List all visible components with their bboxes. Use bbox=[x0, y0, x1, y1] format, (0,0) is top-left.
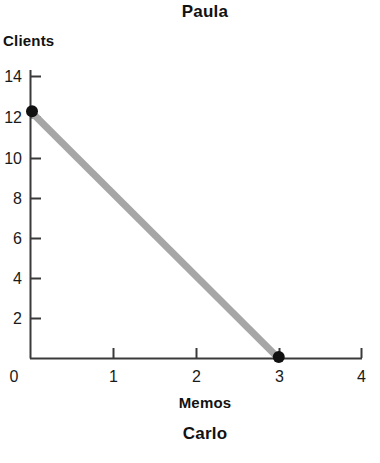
y-axis-tick-labels: 14 12 10 8 6 4 2 bbox=[4, 68, 22, 327]
y-tick-label-4: 4 bbox=[13, 270, 22, 287]
chart-subtitle: Carlo bbox=[0, 424, 380, 444]
x-axis-title-text: Memos bbox=[179, 394, 232, 411]
y-tick-label-14: 14 bbox=[4, 68, 22, 85]
y-tick-label-8: 8 bbox=[13, 190, 22, 207]
y-tick-label-12: 12 bbox=[4, 109, 22, 126]
x-tick-label-3: 3 bbox=[275, 368, 284, 385]
x-tick-label-1: 1 bbox=[109, 368, 118, 385]
x-tick-label-2: 2 bbox=[192, 368, 201, 385]
chart-subtitle-text: Carlo bbox=[183, 424, 227, 443]
y-tick-label-6: 6 bbox=[13, 230, 22, 247]
data-line-ppf bbox=[31, 111, 279, 358]
data-point-marker-3-0[interactable] bbox=[273, 351, 285, 363]
axis-origin-label: 0 bbox=[10, 368, 19, 385]
x-axis-ticks bbox=[114, 348, 362, 358]
x-tick-label-4: 4 bbox=[357, 368, 366, 385]
y-tick-label-10: 10 bbox=[4, 150, 22, 167]
data-point-marker-0-12[interactable] bbox=[26, 105, 38, 117]
y-tick-label-2: 2 bbox=[13, 310, 22, 327]
x-axis-title: Memos bbox=[0, 394, 380, 411]
x-axis-tick-labels: 1 2 3 4 bbox=[109, 368, 366, 385]
chart-container: Paula Clients 14 12 10 8 bbox=[0, 0, 380, 463]
